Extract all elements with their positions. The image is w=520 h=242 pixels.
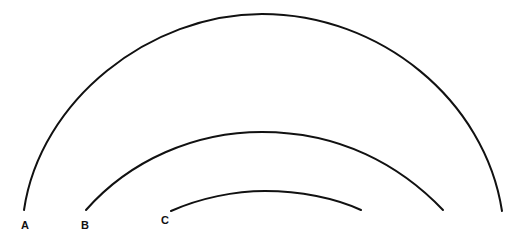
arc-b: [86, 132, 443, 210]
label-a: A: [21, 219, 29, 231]
label-c: C: [161, 214, 169, 226]
diagram-canvas: A B C: [0, 0, 520, 242]
label-b: B: [81, 219, 89, 231]
arc-c: [171, 191, 361, 211]
arcs-svg: [0, 0, 520, 242]
arc-a: [24, 14, 502, 211]
